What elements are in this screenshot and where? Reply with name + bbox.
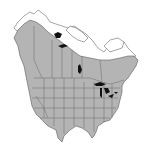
range-map xyxy=(0,0,149,152)
